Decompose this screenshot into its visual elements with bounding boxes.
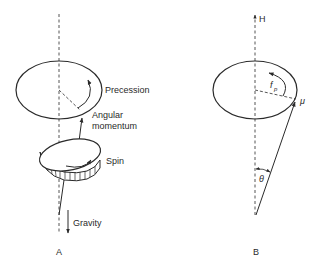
theta-angle-arc: [256, 169, 270, 172]
angular-momentum-label-line2: momentum: [92, 121, 137, 131]
spinning-disc: [37, 134, 104, 181]
panel-a: Precession Angular momentum: [16, 14, 150, 257]
precession-arrow-icon: [78, 80, 90, 108]
panel-a-label: A: [56, 247, 62, 257]
precession-diagram: Precession Angular momentum: [0, 0, 321, 268]
field-label-h: H: [259, 14, 266, 24]
panel-b: H f p μ θ B: [213, 14, 305, 257]
gravity-label: Gravity: [73, 218, 102, 228]
angular-momentum-label-line1: Angular: [92, 110, 123, 120]
precession-label: Precession: [105, 85, 150, 95]
top-stem: [59, 180, 64, 215]
panel-b-label: B: [253, 247, 259, 257]
magnetic-moment-label: μ: [299, 96, 305, 106]
precession-radius-line: [59, 90, 80, 110]
precession-frequency-subscript: p: [273, 86, 278, 92]
theta-label: θ: [259, 174, 264, 184]
spin-label: Spin: [106, 156, 124, 166]
